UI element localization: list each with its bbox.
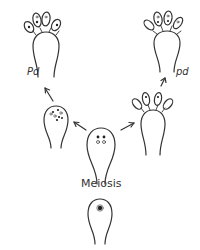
label-pd-left: Pd: [27, 66, 39, 77]
basidium-right-spores: [142, 11, 184, 72]
arrow-left-up: [45, 88, 53, 101]
basidium-left-nuclei: [44, 106, 68, 148]
arrow-to-left: [74, 122, 86, 130]
arrow-to-right: [121, 123, 134, 131]
diagram-drawing: [0, 0, 200, 250]
label-pd-right: pd: [176, 66, 189, 77]
basidium-right-spores-young: [130, 92, 174, 155]
basidium-post-meiosis: [87, 128, 115, 184]
meiosis-diagram: Pd pd Meiosis: [0, 0, 200, 250]
arrow-right-up: [161, 78, 166, 86]
basidium-diploid: [88, 199, 112, 244]
label-meiosis: Meiosis: [81, 177, 122, 190]
